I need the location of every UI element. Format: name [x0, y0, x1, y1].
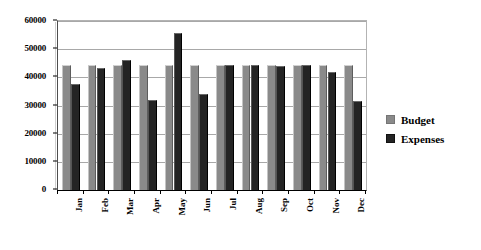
bar-expenses	[328, 72, 337, 190]
x-axis-tick-mark	[185, 190, 186, 194]
bar-expenses	[148, 100, 157, 190]
y-axis-tick-label: 60000	[24, 15, 46, 25]
x-axis-tick-label-dec: Dec	[356, 198, 366, 213]
bar-budget	[216, 65, 225, 190]
x-axis-tick-label-sep: Sep	[279, 198, 289, 212]
bar-expenses	[353, 101, 362, 190]
legend-label: Expenses	[401, 133, 444, 145]
bar-budget	[62, 65, 71, 190]
bar-budget	[319, 65, 328, 190]
x-axis-tick-mark	[83, 190, 84, 194]
x-axis-tick-mark	[108, 190, 109, 194]
bars-layer	[58, 21, 366, 190]
bar-group	[340, 21, 366, 190]
y-axis: 0100002000030000400005000060000	[0, 0, 52, 250]
y-axis-tick-label: 0	[42, 184, 46, 194]
x-axis-tick-mark	[211, 190, 212, 194]
bar-expenses	[71, 84, 80, 190]
x-axis-tick-mark	[134, 190, 135, 194]
bar-budget	[242, 65, 251, 190]
x-axis-tick-label-nov: Nov	[331, 198, 341, 214]
bar-group	[58, 21, 84, 190]
y-axis-tick-label: 40000	[24, 71, 46, 81]
y-axis-tick-label: 10000	[24, 156, 46, 166]
bar-budget	[293, 65, 302, 190]
bar-budget	[139, 65, 148, 190]
x-axis-tick-mark	[160, 190, 161, 194]
x-axis-tick-label-apr: Apr	[151, 198, 161, 214]
x-axis-tick-label-feb: Feb	[100, 198, 110, 213]
bar-expenses	[302, 65, 311, 190]
x-axis-tick-mark	[57, 190, 58, 194]
bar-budget	[267, 65, 276, 190]
x-axis-tick-mark	[339, 190, 340, 194]
bar-chart: 0100002000030000400005000060000 JanFebMa…	[0, 0, 481, 250]
bar-group	[289, 21, 315, 190]
bar-expenses	[174, 33, 183, 190]
legend: BudgetExpenses	[386, 110, 481, 148]
legend-item-budget: Budget	[386, 110, 481, 129]
legend-swatch-budget	[386, 115, 395, 124]
bar-group	[212, 21, 238, 190]
x-axis-tick-mark	[237, 190, 238, 194]
bar-expenses	[225, 65, 234, 190]
bar-group	[135, 21, 161, 190]
legend-item-expenses: Expenses	[386, 129, 481, 148]
x-axis-tick-mark	[262, 190, 263, 194]
bar-group	[109, 21, 135, 190]
y-axis-tick-label: 30000	[24, 100, 46, 110]
x-axis-tick-label-mar: Mar	[125, 198, 135, 215]
bar-group	[263, 21, 289, 190]
bar-budget	[88, 65, 97, 190]
bar-group	[161, 21, 187, 190]
x-axis-tick-mark	[314, 190, 315, 194]
x-axis-tick-mark	[288, 190, 289, 194]
plot-area	[57, 20, 367, 191]
y-axis-tick-label: 20000	[24, 128, 46, 138]
bar-budget	[165, 65, 174, 190]
bar-budget	[344, 65, 353, 190]
bar-budget	[113, 65, 122, 190]
bar-expenses	[122, 60, 131, 190]
legend-label: Budget	[401, 114, 435, 126]
bar-expenses	[276, 66, 285, 190]
x-axis-tick-label-jun: Jun	[202, 198, 212, 213]
x-axis-tick-mark	[365, 190, 366, 194]
bar-group	[84, 21, 110, 190]
x-axis-tick-label-oct: Oct	[305, 198, 315, 212]
bar-group	[238, 21, 264, 190]
y-axis-tick-label: 50000	[24, 43, 46, 53]
bar-group	[186, 21, 212, 190]
x-axis: JanFebMarAprMayJunJulAugSepOctNovDec	[57, 190, 365, 250]
bar-expenses	[199, 94, 208, 190]
bar-budget	[190, 65, 199, 190]
x-axis-tick-label-jan: Jan	[74, 198, 84, 212]
x-axis-tick-label-may: May	[177, 198, 187, 216]
bar-expenses	[251, 65, 260, 190]
bar-expenses	[97, 68, 106, 190]
bar-group	[315, 21, 341, 190]
x-axis-tick-label-aug: Aug	[254, 198, 264, 214]
legend-swatch-expenses	[386, 134, 395, 143]
x-axis-tick-label-jul: Jul	[228, 198, 238, 210]
